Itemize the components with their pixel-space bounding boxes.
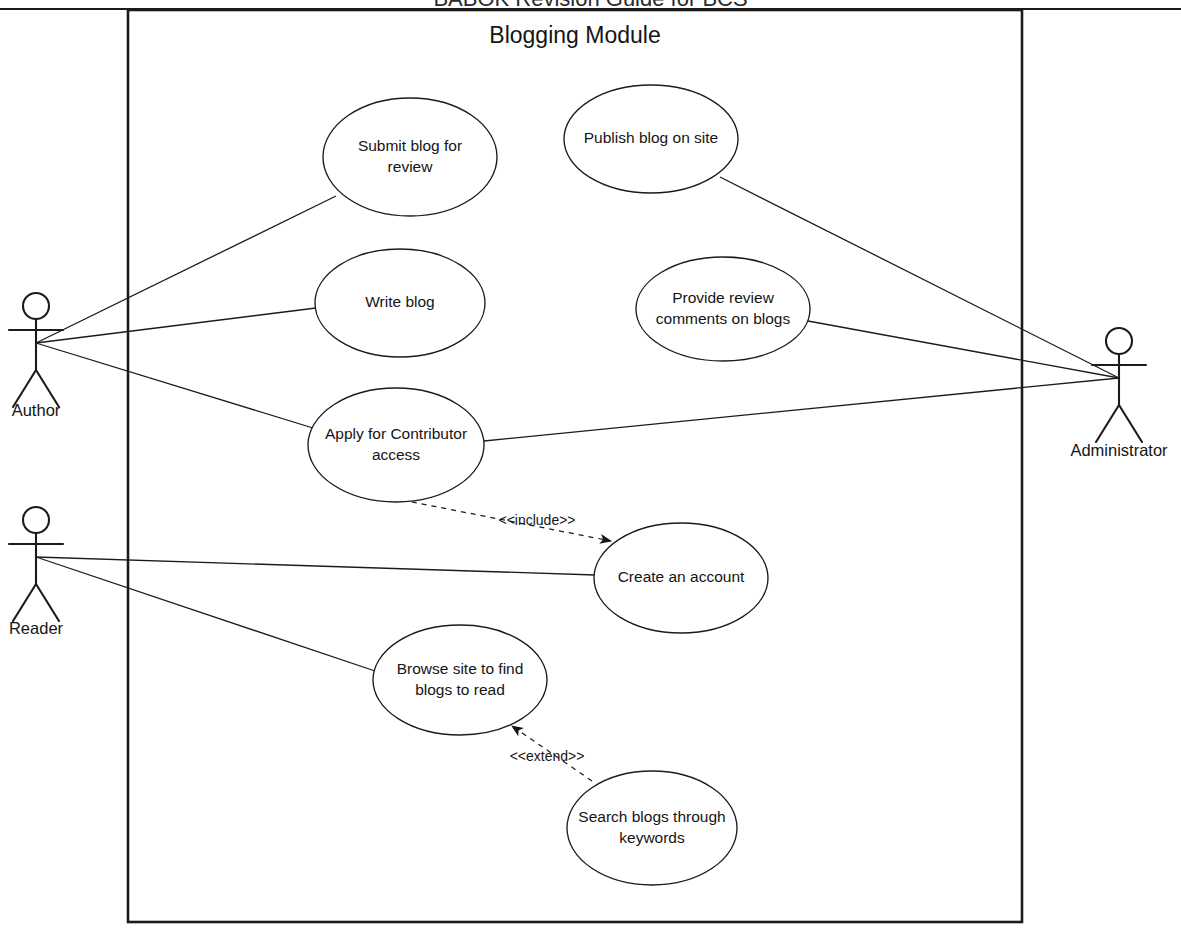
use-case-publish_blog[interactable]: Publish blog on site (564, 85, 738, 193)
stereotype-include-apply-create: <<include>> (402, 500, 611, 541)
use-case-write_blog[interactable]: Write blog (315, 249, 485, 357)
use-case-label-line2-search_blogs: keywords (619, 829, 685, 846)
actor-reader[interactable]: Reader (9, 507, 64, 637)
association-author-write_blog (36, 308, 316, 343)
use-case-ellipse-submit_blog[interactable] (323, 98, 497, 216)
use-cases-group: Submit blog forreviewPublish blog on sit… (308, 85, 810, 885)
actor-leg-right-administrator (1119, 405, 1142, 442)
use-case-ellipse-apply_access[interactable] (308, 388, 484, 502)
use-case-ellipse-browse_site[interactable] (373, 625, 547, 735)
association-administrator-apply_access (484, 378, 1119, 441)
association-reader-create_account (36, 557, 595, 575)
use-case-label-line2-submit_blog: review (388, 158, 434, 175)
use-case-label-browse_site: Browse site to find (397, 660, 524, 677)
stereotype-label-extend: <<extend>> (510, 748, 585, 764)
actor-leg-right-reader (36, 584, 59, 621)
use-case-apply_access[interactable]: Apply for Contributoraccess (308, 388, 484, 502)
association-reader-browse_site (36, 557, 375, 671)
actor-head-author (23, 293, 49, 319)
use-case-label-provide_review: Provide review (672, 289, 774, 306)
use-case-diagram: Blogging Module <<include>><<extend>> Su… (0, 0, 1181, 935)
use-case-label-apply_access: Apply for Contributor (325, 425, 467, 442)
actor-head-reader (23, 507, 49, 533)
frame-title: Blogging Module (489, 22, 660, 48)
actor-label-author: Author (12, 401, 61, 419)
actor-administrator[interactable]: Administrator (1070, 328, 1168, 459)
use-case-ellipse-search_blogs[interactable] (567, 771, 737, 885)
use-case-provide_review[interactable]: Provide reviewcomments on blogs (636, 257, 810, 361)
actor-label-administrator: Administrator (1070, 441, 1168, 459)
association-author-submit_blog (36, 196, 336, 343)
actor-leg-left-administrator (1096, 405, 1119, 442)
use-case-label-publish_blog: Publish blog on site (584, 129, 718, 146)
use-case-submit_blog[interactable]: Submit blog forreview (323, 98, 497, 216)
stereotype-extend-search-browse: <<extend>> (510, 726, 592, 781)
use-case-create_account[interactable]: Create an account (594, 523, 768, 633)
diagram-canvas: BABOK Revision Guide for BCS Blogging Mo… (0, 0, 1181, 935)
use-case-label-line2-apply_access: access (372, 446, 420, 463)
association-author-apply_access (36, 343, 313, 428)
actor-author[interactable]: Author (9, 293, 63, 419)
use-case-ellipse-provide_review[interactable] (636, 257, 810, 361)
actors-group: AuthorReaderAdministrator (9, 293, 1168, 637)
use-case-browse_site[interactable]: Browse site to findblogs to read (373, 625, 547, 735)
association-administrator-provide_review (808, 321, 1119, 378)
association-lines-group (36, 177, 1119, 671)
use-case-search_blogs[interactable]: Search blogs throughkeywords (567, 771, 737, 885)
actor-head-administrator (1106, 328, 1132, 354)
use-case-label-create_account: Create an account (618, 568, 745, 585)
use-case-label-line2-browse_site: blogs to read (415, 681, 505, 698)
actor-label-reader: Reader (9, 619, 64, 637)
use-case-label-write_blog: Write blog (365, 293, 435, 310)
stereotype-label-include: <<include>> (498, 512, 575, 528)
use-case-label-submit_blog: Submit blog for (358, 137, 462, 154)
use-case-label-line2-provide_review: comments on blogs (656, 310, 791, 327)
actor-leg-left-reader (13, 584, 36, 621)
use-case-label-search_blogs: Search blogs through (578, 808, 725, 825)
